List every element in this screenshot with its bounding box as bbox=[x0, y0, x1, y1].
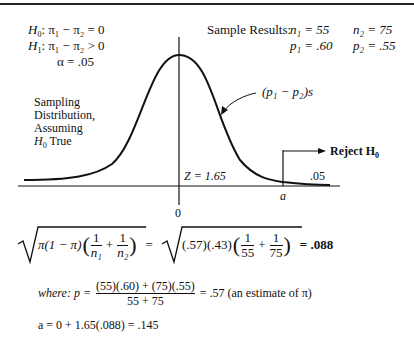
paren-open: ( bbox=[82, 232, 89, 258]
rhs-frac1-den: 55 bbox=[241, 246, 254, 260]
std-error-rhs: (.57)(.43) ( 155 + 175 ) = .088 bbox=[182, 229, 333, 261]
std-error-lhs: π(1 − π) ( 1n₁ + 1n₂ ) = bbox=[38, 229, 153, 261]
lhs-frac2-num: 1 bbox=[117, 231, 128, 246]
paren-open-2: ( bbox=[233, 232, 240, 258]
rhs-frac1: 155 bbox=[241, 231, 254, 260]
rhs-frac2: 175 bbox=[270, 231, 283, 260]
lhs-frac1-num: 1 bbox=[91, 231, 102, 246]
rhs-frac2-num: 1 bbox=[270, 231, 283, 246]
pooled-den: 55 + 75 bbox=[96, 294, 195, 308]
rhs-frac2-den: 75 bbox=[270, 246, 283, 260]
critical-value-formula: a = 0 + 1.65(.088) = .145 bbox=[38, 318, 159, 333]
rhs-frac1-num: 1 bbox=[241, 231, 254, 246]
pooled-result: = .57 (an estimate of π) bbox=[200, 286, 312, 301]
paren-close: ) bbox=[129, 232, 136, 258]
rhs-prefix: (.57)(.43) bbox=[182, 237, 232, 253]
pooled-frac: (55)(.60) + (75)(.55)55 + 75 bbox=[96, 279, 195, 308]
lhs-frac1: 1n₁ bbox=[91, 231, 102, 260]
equals-sign: = bbox=[146, 237, 153, 253]
lhs-frac2-den: n₂ bbox=[117, 246, 128, 260]
pooled-num: (55)(.60) + (75)(.55) bbox=[96, 279, 195, 294]
paren-close-2: ) bbox=[284, 232, 291, 258]
lhs-prefix: π(1 − π) bbox=[38, 237, 81, 253]
std-error-result: = .088 bbox=[300, 237, 333, 253]
pooled-prefix: where: p = bbox=[38, 286, 91, 301]
plus-sign-2: + bbox=[258, 237, 265, 253]
lhs-frac2: 1n₂ bbox=[117, 231, 128, 260]
pooled-estimate: where: p = (55)(.60) + (75)(.55)55 + 75 … bbox=[38, 276, 312, 310]
plus-sign: + bbox=[106, 237, 113, 253]
lhs-frac1-den: n₁ bbox=[91, 246, 102, 260]
